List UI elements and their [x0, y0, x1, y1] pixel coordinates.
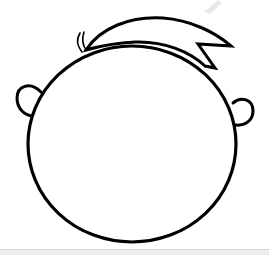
- bottom-bar: [0, 249, 269, 255]
- right-ear: [233, 99, 253, 125]
- hair-strand-1: [78, 33, 82, 52]
- ghost-mark-icon: [204, 0, 222, 14]
- hair-strand-2: [83, 32, 86, 50]
- head-outline: [28, 46, 236, 242]
